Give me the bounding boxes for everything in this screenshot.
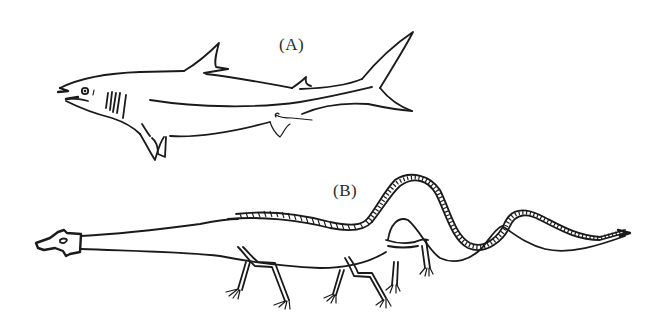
legs (238, 247, 398, 301)
illustration-canvas: (A) (B) (0, 0, 665, 333)
creature-drawing (0, 0, 665, 333)
